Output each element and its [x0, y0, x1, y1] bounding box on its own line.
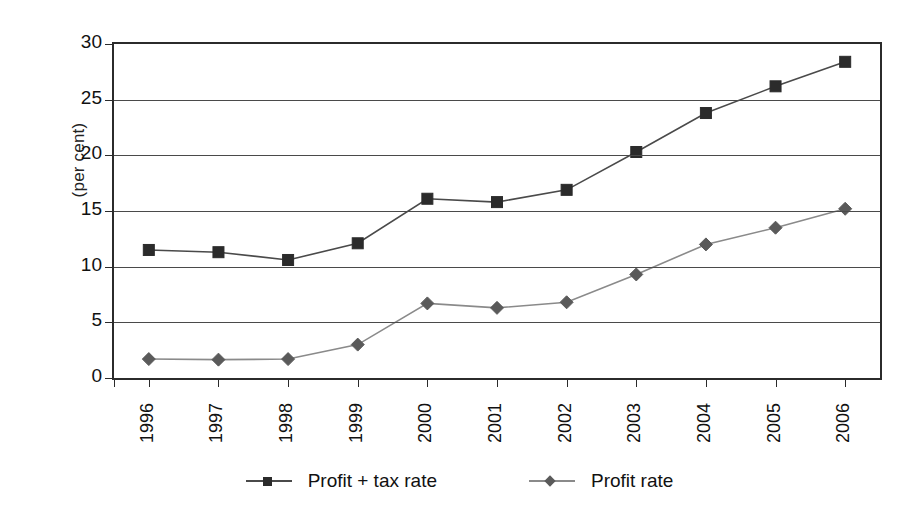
x-axis-tick-label: 1996	[138, 385, 156, 461]
square-marker-icon	[840, 56, 851, 67]
plot-area	[112, 42, 882, 380]
x-axis-tick-label: 1997	[207, 385, 225, 461]
gridline	[114, 267, 880, 268]
series-line	[149, 62, 845, 260]
diamond-marker-icon	[544, 475, 555, 486]
x-axis-tick-label: 1998	[277, 385, 295, 461]
chart-figure: (per cent) 051015202530 1996199719981999…	[0, 0, 919, 509]
legend-swatch	[529, 474, 575, 488]
x-axis-tick-label: 1999	[347, 385, 365, 461]
x-axis-tick-label: 2001	[486, 385, 504, 461]
y-axis-tick-label: 15	[58, 199, 102, 218]
y-axis-tick-label: 20	[58, 143, 102, 162]
square-marker-icon	[422, 193, 433, 204]
square-marker-icon	[492, 197, 503, 208]
legend-swatch	[246, 474, 292, 488]
gridline	[114, 211, 880, 212]
y-axis-tick-mark	[105, 211, 114, 212]
x-axis-tick-label: 2006	[834, 385, 852, 461]
y-axis-tick-label: 25	[58, 88, 102, 107]
square-marker-icon	[352, 238, 363, 249]
square-marker-icon	[143, 244, 154, 255]
x-axis-tick-label: 2002	[556, 385, 574, 461]
diamond-marker-icon	[560, 296, 573, 309]
diamond-marker-icon	[491, 301, 504, 314]
x-axis-tick-label: 2004	[695, 385, 713, 461]
diamond-marker-icon	[839, 202, 852, 215]
chart-legend: Profit + tax rateProfit rate	[0, 470, 919, 492]
gridline	[114, 155, 880, 156]
y-axis-tick-label: 10	[58, 255, 102, 274]
square-marker-icon	[561, 184, 572, 195]
legend-label: Profit rate	[591, 470, 673, 492]
series-line	[149, 209, 845, 360]
y-axis-tick-label: 0	[58, 366, 102, 385]
y-axis-tick-mark	[105, 44, 114, 45]
y-axis-tick-label: 30	[58, 32, 102, 51]
x-axis-tick-label: 2003	[625, 385, 643, 461]
square-marker-icon	[700, 108, 711, 119]
y-axis-tick-mark	[105, 267, 114, 268]
legend-entry[interactable]: Profit rate	[529, 470, 673, 492]
square-marker-icon	[283, 254, 294, 265]
y-axis-tick-mark	[105, 378, 114, 379]
diamond-marker-icon	[630, 268, 643, 281]
y-axis-tick-mark	[105, 322, 114, 323]
x-axis-tick-label: 2005	[765, 385, 783, 461]
legend-label: Profit + tax rate	[308, 470, 437, 492]
diamond-marker-icon	[421, 297, 434, 310]
diamond-marker-icon	[212, 353, 225, 366]
y-axis-tick-mark	[105, 155, 114, 156]
y-axis-tick-labels: 051015202530	[58, 0, 102, 509]
legend-entry[interactable]: Profit + tax rate	[246, 470, 437, 492]
diamond-marker-icon	[699, 238, 712, 251]
gridline	[114, 322, 880, 323]
diamond-marker-icon	[142, 353, 155, 366]
diamond-marker-icon	[351, 338, 364, 351]
square-marker-icon	[263, 477, 272, 486]
x-axis-tick-labels: 1996199719981999200020012002200320042005…	[112, 384, 878, 460]
y-axis-tick-mark	[105, 100, 114, 101]
diamond-marker-icon	[282, 353, 295, 366]
square-marker-icon	[213, 247, 224, 258]
square-marker-icon	[770, 81, 781, 92]
y-axis-tick-label: 5	[58, 310, 102, 329]
x-axis-tick-label: 2000	[416, 385, 434, 461]
diamond-marker-icon	[769, 221, 782, 234]
gridline	[114, 100, 880, 101]
